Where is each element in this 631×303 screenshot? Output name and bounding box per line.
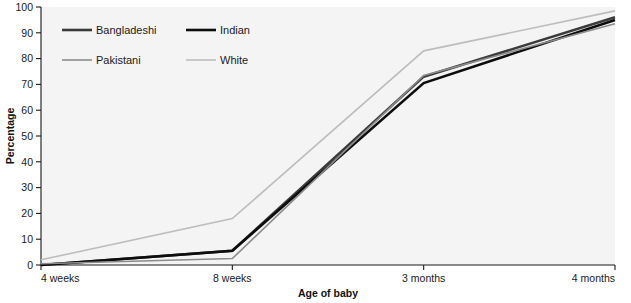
y-tick-label: 20 bbox=[21, 207, 33, 219]
legend-label: Bangladeshi bbox=[96, 24, 157, 36]
chart-canvas: 0102030405060708090100 4 weeks8 weeks3 m… bbox=[0, 0, 631, 303]
y-tick-label: 80 bbox=[21, 52, 33, 64]
y-axis-title: Percentage bbox=[4, 108, 16, 165]
y-tick-label: 60 bbox=[21, 104, 33, 116]
y-tick-label: 50 bbox=[21, 130, 33, 142]
legend-label: Indian bbox=[220, 24, 250, 36]
y-tick-label: 70 bbox=[21, 78, 33, 90]
y-tick-label: 90 bbox=[21, 27, 33, 39]
y-tick-label: 10 bbox=[21, 233, 33, 245]
x-axis-ticks: 4 weeks8 weeks3 months4 months bbox=[41, 265, 615, 284]
x-tick-label: 8 weeks bbox=[213, 272, 252, 284]
y-tick-label: 40 bbox=[21, 156, 33, 168]
x-axis-title: Age of baby bbox=[298, 287, 358, 299]
x-tick-label: 3 months bbox=[402, 272, 445, 284]
y-tick-label: 0 bbox=[27, 259, 33, 271]
plot-area-background bbox=[41, 7, 615, 265]
legend-label: Pakistani bbox=[96, 54, 141, 66]
y-axis-ticks: 0102030405060708090100 bbox=[15, 1, 41, 271]
y-tick-label: 100 bbox=[15, 1, 33, 13]
x-tick-label: 4 months bbox=[572, 272, 615, 284]
y-tick-label: 30 bbox=[21, 181, 33, 193]
legend-label: White bbox=[220, 54, 248, 66]
x-tick-label: 4 weeks bbox=[41, 272, 80, 284]
line-chart: 0102030405060708090100 4 weeks8 weeks3 m… bbox=[0, 0, 631, 303]
